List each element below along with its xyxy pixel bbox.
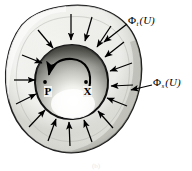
label-point-p: P — [44, 86, 52, 97]
point-marker-p — [43, 80, 47, 84]
flux-inner-symbol: Φ — [153, 76, 161, 88]
figure-caption: (b) — [0, 162, 192, 170]
flux-outer-symbol: Φ — [128, 14, 136, 26]
label-flux-outer: Φt(U) — [128, 15, 155, 28]
label-point-x: X — [83, 86, 92, 97]
point-marker-x — [84, 80, 88, 84]
flux-inner-argument: (U) — [165, 76, 181, 88]
flux-outer-argument: (U) — [139, 14, 155, 26]
figure-container: Φt(U) Φs(U) P X (b) — [0, 0, 192, 171]
label-flux-inner: Φs(U) — [153, 77, 181, 90]
